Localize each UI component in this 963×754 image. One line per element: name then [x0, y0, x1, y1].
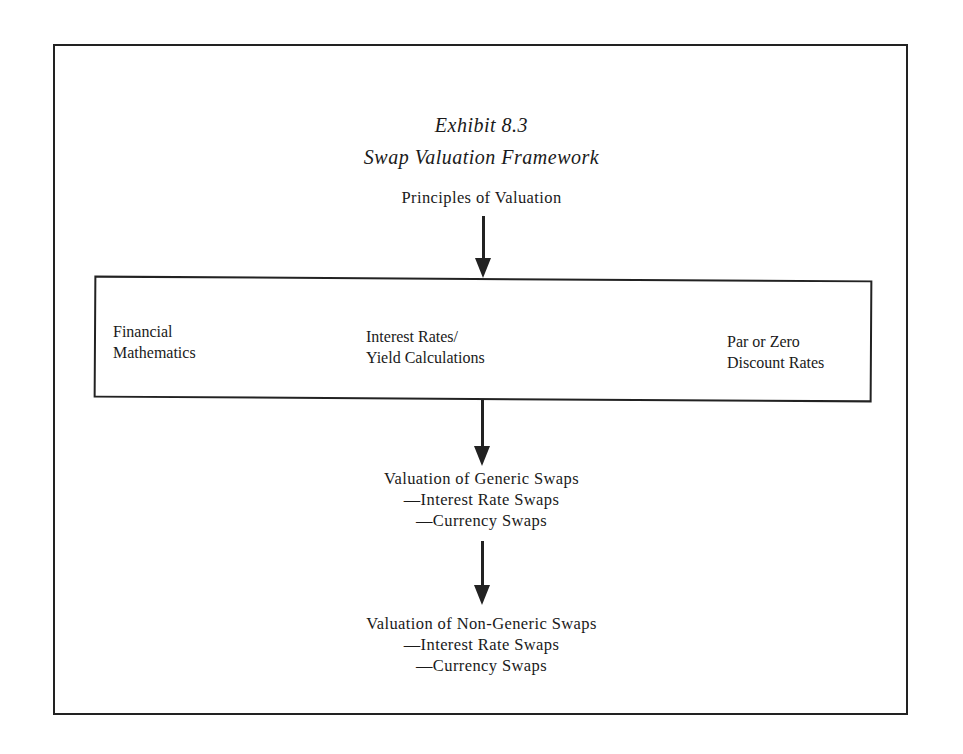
node-discount-rates: Par or Zero Discount Rates	[727, 331, 824, 373]
exhibit-number: Exhibit 8.3	[0, 114, 963, 137]
node-item: —Currency Swaps	[0, 510, 963, 531]
node-item: —Currency Swaps	[0, 655, 963, 676]
node-interest-rates: Interest Rates/ Yield Calculations	[366, 326, 485, 368]
node-item: —Interest Rate Swaps	[0, 634, 963, 655]
node-label: Par or Zero	[727, 331, 824, 352]
arrow-down-icon	[473, 216, 493, 278]
node-heading: Valuation of Non-Generic Swaps	[0, 613, 963, 634]
node-label: Mathematics	[113, 342, 196, 363]
node-label: Interest Rates/	[366, 326, 485, 347]
arrow-down-icon	[472, 541, 492, 605]
exhibit-title: Swap Valuation Framework	[0, 146, 963, 169]
node-non-generic-swaps: Valuation of Non-Generic Swaps —Interest…	[0, 613, 963, 676]
node-label: Yield Calculations	[366, 347, 485, 368]
node-financial-mathematics: Financial Mathematics	[113, 321, 196, 363]
node-label: Financial	[113, 321, 196, 342]
node-heading: Valuation of Generic Swaps	[0, 468, 963, 489]
node-label: Discount Rates	[727, 352, 824, 373]
node-principles: Principles of Valuation	[0, 187, 963, 208]
node-item: —Interest Rate Swaps	[0, 489, 963, 510]
node-generic-swaps: Valuation of Generic Swaps —Interest Rat…	[0, 468, 963, 531]
arrow-down-icon	[472, 400, 492, 466]
